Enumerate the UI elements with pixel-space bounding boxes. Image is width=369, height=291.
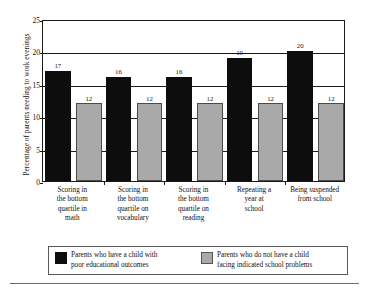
- bar-value-label: 16: [176, 69, 183, 76]
- y-axis-title: Percentage of parents needing to work ev…: [22, 15, 31, 195]
- x-tick-mark: [285, 181, 286, 185]
- bar-light: 12: [258, 103, 284, 181]
- bar-light: 12: [318, 103, 344, 181]
- light-swatch-icon: [201, 252, 213, 264]
- x-category-label: Scoring inthe bottomquartile onreading: [163, 186, 224, 224]
- x-tick-mark: [104, 181, 105, 185]
- x-axis-category-labels: Scoring inthe bottomquartile inmathScori…: [42, 186, 345, 236]
- bar-dark: 20: [287, 51, 313, 181]
- x-category-label: Repeating ayear atschool: [224, 186, 285, 214]
- bar-dark: 16: [106, 77, 132, 181]
- bar-chart-figure: Percentage of parents needing to work ev…: [0, 0, 369, 291]
- x-category-label: Scoring inthe bottomquartile onvocabular…: [103, 186, 164, 224]
- bottom-divider: [10, 283, 359, 284]
- y-tick-mark: [40, 183, 44, 184]
- bar-light: 12: [137, 103, 163, 181]
- x-category-label: Scoring inthe bottomquartile inmath: [42, 186, 103, 224]
- bar-value-label: 12: [207, 96, 214, 103]
- bar-value-label: 12: [328, 96, 335, 103]
- plot-area: 0510152025 17121612161219122012: [42, 20, 345, 182]
- bar-series-container: 17121612161219122012: [43, 21, 344, 181]
- x-tick-mark: [164, 181, 165, 185]
- bar-light: 12: [76, 103, 102, 181]
- x-tick-mark: [225, 181, 226, 185]
- legend-entry-dark: Parents who have a child with poor educa…: [55, 251, 157, 270]
- bar-light: 12: [197, 103, 223, 181]
- bar-value-label: 17: [54, 63, 61, 70]
- chart-legend: Parents who have a child with poor educa…: [48, 246, 348, 275]
- bar-value-label: 12: [146, 96, 153, 103]
- x-category-label: Being suspendedfrom school: [284, 186, 345, 205]
- bar-dark: 19: [227, 58, 253, 181]
- legend-label-light: Parents who do not have a child facing i…: [217, 251, 312, 270]
- bar-value-label: 12: [85, 96, 92, 103]
- legend-entry-light: Parents who do not have a child facing i…: [201, 251, 312, 270]
- bar-value-label: 12: [267, 96, 274, 103]
- dark-swatch-icon: [55, 252, 67, 264]
- legend-label-dark: Parents who have a child with poor educa…: [71, 251, 157, 270]
- bar-dark: 17: [45, 71, 71, 181]
- bar-value-label: 16: [115, 69, 122, 76]
- bar-value-label: 20: [297, 43, 304, 50]
- bar-dark: 16: [166, 77, 192, 181]
- bar-value-label: 19: [236, 50, 243, 57]
